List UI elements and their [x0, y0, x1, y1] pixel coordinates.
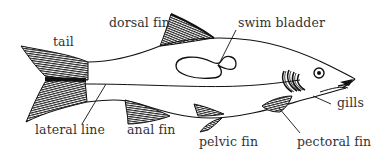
label-swim-bladder: swim bladder	[238, 17, 325, 30]
leader-gills	[313, 96, 331, 104]
tail-fin-upper	[21, 46, 88, 80]
pectoral-fin	[262, 96, 292, 112]
tail-fin-lower	[26, 80, 87, 122]
label-tail: tail	[53, 36, 74, 49]
pelvic-fin-lower	[200, 118, 222, 132]
leader-pectoral-fin	[279, 108, 300, 133]
label-dorsal-fin: dorsal fin	[109, 17, 170, 30]
label-pectoral-fin: pectoral fin	[297, 136, 371, 149]
swim-bladder	[176, 57, 236, 79]
label-anal-fin: anal fin	[127, 124, 175, 137]
anal-fin	[125, 100, 170, 124]
fish-anatomy-diagram: dorsal fin tail swim bladder gills later…	[0, 0, 379, 158]
label-pelvic-fin: pelvic fin	[199, 136, 258, 149]
leader-swim-bladder	[218, 30, 236, 66]
pelvic-fin-upper	[194, 104, 224, 116]
label-lateral-line: lateral line	[35, 124, 105, 137]
lateral-line	[86, 80, 300, 87]
label-gills: gills	[337, 97, 364, 110]
